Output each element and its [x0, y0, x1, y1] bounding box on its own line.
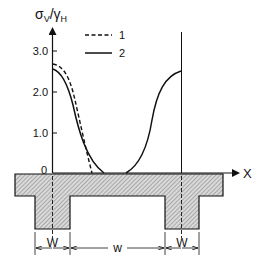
foundation-structure — [15, 174, 223, 238]
dim-label-left-column: W — [47, 236, 59, 250]
dim-label-right-column: W — [176, 236, 188, 250]
dim-label-gap: w — [112, 241, 122, 255]
curve-2-solid-left — [53, 69, 104, 173]
curve-1-dashed — [53, 64, 92, 173]
legend-label-2: 2 — [119, 47, 125, 59]
y-tick-label-1: 1.0 — [33, 127, 48, 139]
y-tick-label-0: 0 — [41, 164, 47, 176]
y-axis-label: σV/γH — [35, 6, 67, 24]
legend-label-1: 1 — [119, 29, 125, 41]
foundation-slab — [15, 174, 223, 229]
y-tick-label-3: 3.0 — [33, 45, 48, 57]
curve-2-solid-right — [126, 71, 181, 173]
x-axis-label: X — [243, 166, 252, 181]
axes — [53, 29, 239, 173]
y-tick-label-2: 2.0 — [33, 86, 48, 98]
stress-distribution-diagram: 3.0 2.0 1.0 0 σV/γH X 1 2 W w W — [0, 0, 258, 269]
legend: 1 2 — [85, 29, 125, 59]
